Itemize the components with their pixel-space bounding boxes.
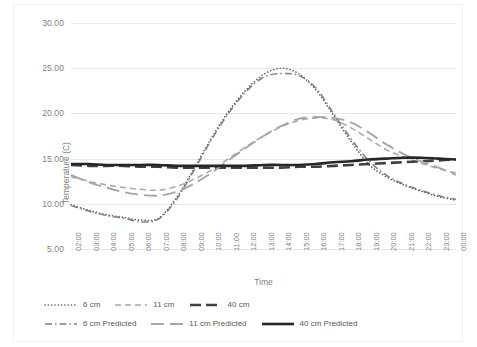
x-axis-tick-label: 04:00 xyxy=(109,232,118,251)
legend-label: 40 cm Predicted xyxy=(300,319,358,328)
legend-label: 6 cm xyxy=(83,300,100,309)
legend-item[interactable]: 40 cm xyxy=(189,300,250,310)
legend-swatch-icon xyxy=(189,300,223,310)
x-axis-tick-label: 14:00 xyxy=(284,232,293,251)
chart-legend: 6 cm11 cm40 cm 6 cm Predicted11 cm Predi… xyxy=(44,295,444,333)
x-axis-tick-label: 19:00 xyxy=(372,232,381,251)
series-line-11-cm xyxy=(71,118,456,190)
x-axis-tick-label: 12:00 xyxy=(249,232,258,251)
legend-item[interactable]: 40 cm Predicted xyxy=(261,319,358,329)
x-axis-tick-label: 20:00 xyxy=(389,232,398,251)
legend-item[interactable]: 6 cm Predicted xyxy=(44,319,136,329)
x-axis-tick-label: 00:00 xyxy=(459,232,468,251)
x-axis-tick-label: 13:00 xyxy=(267,232,276,251)
x-axis-tick-label: 03:00 xyxy=(92,232,101,251)
y-axis-tick-label: 10.00 xyxy=(42,199,64,209)
y-axis-title: Temperature (C) xyxy=(61,142,71,204)
x-axis-tick-label: 07:00 xyxy=(162,232,171,251)
legend-item[interactable]: 11 cm xyxy=(114,300,174,310)
x-axis-tick-label: 06:00 xyxy=(144,232,153,251)
plot-area: 5.0010.0015.0020.0025.0030.00 xyxy=(71,23,456,249)
x-axis-tick-label: 18:00 xyxy=(354,232,363,251)
y-axis-tick-label: 5.00 xyxy=(47,244,64,254)
y-axis-tick-label: 30.00 xyxy=(42,18,64,28)
x-axis-title: Time xyxy=(71,277,456,287)
legend-swatch-icon xyxy=(261,319,295,329)
series-line-11-cm-predicted xyxy=(71,117,456,196)
x-axis-tick-label: 08:00 xyxy=(179,232,188,251)
y-axis-tick-label: 15.00 xyxy=(42,154,64,164)
legend-swatch-icon xyxy=(44,319,78,329)
x-axis-tick-label: 05:00 xyxy=(127,232,136,251)
legend-row-predicted: 6 cm Predicted11 cm Predicted40 cm Predi… xyxy=(44,314,444,333)
series-lines xyxy=(71,23,456,249)
series-line-6-cm xyxy=(71,68,456,220)
x-axis-tick-label: 16:00 xyxy=(319,232,328,251)
chart-container: Temperature (C) 5.0010.0015.0020.0025.00… xyxy=(13,4,463,342)
y-axis-tick-label: 25.00 xyxy=(42,63,64,73)
legend-label: 6 cm Predicted xyxy=(83,319,136,328)
legend-swatch-icon xyxy=(44,300,78,310)
x-axis-tick-label: 22:00 xyxy=(424,232,433,251)
legend-label: 40 cm xyxy=(228,300,250,309)
legend-swatch-icon xyxy=(114,300,148,310)
legend-item[interactable]: 6 cm xyxy=(44,300,100,310)
x-axis-tick-label: 09:00 xyxy=(197,232,206,251)
x-axis-tick-label: 11:00 xyxy=(232,233,241,251)
y-axis-tick-label: 20.00 xyxy=(42,108,64,118)
x-axis-tick-label: 15:00 xyxy=(302,232,311,251)
legend-item[interactable]: 11 cm Predicted xyxy=(150,319,246,329)
legend-label: 11 cm Predicted xyxy=(189,319,246,328)
legend-swatch-icon xyxy=(150,319,184,329)
legend-row-measured: 6 cm11 cm40 cm xyxy=(44,295,444,314)
x-axis-tick-label: 02:00 xyxy=(74,232,83,251)
x-axis-tick-label: 17:00 xyxy=(337,232,346,251)
x-axis-tick-label: 23:00 xyxy=(442,232,451,251)
x-axis-tick-label: 21:00 xyxy=(407,232,416,251)
x-axis-tick-label: 10:00 xyxy=(214,232,223,251)
series-line-6-cm-predicted xyxy=(71,73,456,222)
series-line-40-cm xyxy=(71,160,456,168)
legend-label: 11 cm xyxy=(153,300,174,309)
